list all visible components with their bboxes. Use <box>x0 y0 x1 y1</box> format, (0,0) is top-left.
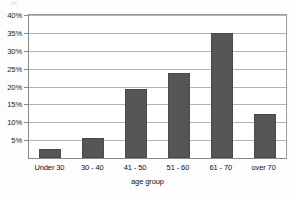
gridline <box>29 69 286 70</box>
y-axis-tick <box>24 104 29 105</box>
bar-chart: 5%10%15%20%25%30%35%40% Under 3030 - 404… <box>0 0 295 197</box>
y-axis-label: 15% <box>7 100 22 109</box>
y-axis-tick <box>24 69 29 70</box>
bar <box>39 149 61 158</box>
y-axis-tick <box>24 33 29 34</box>
x-axis-label: Under 30 <box>34 163 64 172</box>
bar <box>254 114 276 158</box>
y-axis-tick <box>24 140 29 141</box>
plot-area: 5%10%15%20%25%30%35%40% <box>28 14 287 159</box>
y-axis-label: 30% <box>7 46 22 55</box>
y-axis-tick <box>24 122 29 123</box>
bar <box>82 138 104 158</box>
x-axis-label: 51 - 60 <box>167 163 190 172</box>
x-axis-label: 41 - 50 <box>124 163 147 172</box>
gridline <box>29 122 286 123</box>
bar <box>125 89 147 158</box>
y-axis-label: 35% <box>7 28 22 37</box>
y-axis-label: 25% <box>7 64 22 73</box>
x-axis-label: 30 - 40 <box>81 163 104 172</box>
x-axis-label: 61 - 70 <box>209 163 232 172</box>
y-axis-label: 20% <box>7 82 22 91</box>
gridline <box>29 104 286 105</box>
gridline <box>29 51 286 52</box>
y-axis-tick <box>24 87 29 88</box>
gridline <box>29 140 286 141</box>
y-axis-tick <box>24 15 29 16</box>
scan-artifact <box>11 1 17 5</box>
gridline <box>29 15 286 16</box>
bar <box>168 73 190 158</box>
y-axis-label: 10% <box>7 118 22 127</box>
y-axis-label: 40% <box>7 11 22 20</box>
x-axis-label: over 70 <box>251 163 275 172</box>
y-axis-tick <box>24 51 29 52</box>
x-axis-title: age group <box>0 177 295 186</box>
y-axis-label: 5% <box>11 136 22 145</box>
gridline <box>29 33 286 34</box>
gridline <box>29 87 286 88</box>
bar <box>211 33 233 158</box>
